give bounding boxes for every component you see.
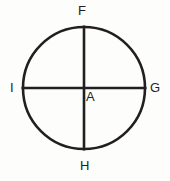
vertex-label-bottom: H bbox=[80, 159, 89, 172]
vertex-label-right: G bbox=[150, 81, 160, 94]
vertex-label-top: F bbox=[78, 4, 86, 17]
circle-diagram-figure: F I G A H bbox=[0, 0, 170, 181]
diagram-canvas bbox=[0, 0, 170, 181]
vertex-label-left: I bbox=[10, 81, 14, 94]
vertex-label-center: A bbox=[86, 90, 95, 103]
